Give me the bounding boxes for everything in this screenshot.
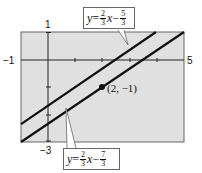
equation-label-bottom: y = 23 x − 73 xyxy=(63,148,120,170)
fraction: 23 xyxy=(80,151,86,168)
x-max-label: 5 xyxy=(187,55,193,66)
y-min-label: −3 xyxy=(40,145,52,156)
eq-minus: − xyxy=(92,152,99,167)
fraction: 53 xyxy=(120,10,126,27)
equation-label-top: y = 23 x − 53 xyxy=(83,7,135,29)
point-marker xyxy=(99,84,105,90)
x-min-label: −1 xyxy=(3,55,15,66)
eq-minus: − xyxy=(112,11,119,26)
y-max-label: 1 xyxy=(45,19,51,30)
denominator: 3 xyxy=(100,160,106,168)
fraction: 23 xyxy=(100,10,106,27)
denominator: 3 xyxy=(100,19,106,27)
eq-equals: = xyxy=(72,152,79,167)
eq-equals: = xyxy=(92,11,99,26)
denominator: 3 xyxy=(80,160,86,168)
fraction: 73 xyxy=(100,151,106,168)
denominator: 3 xyxy=(120,19,126,27)
point-label: (2, −1) xyxy=(107,82,137,95)
